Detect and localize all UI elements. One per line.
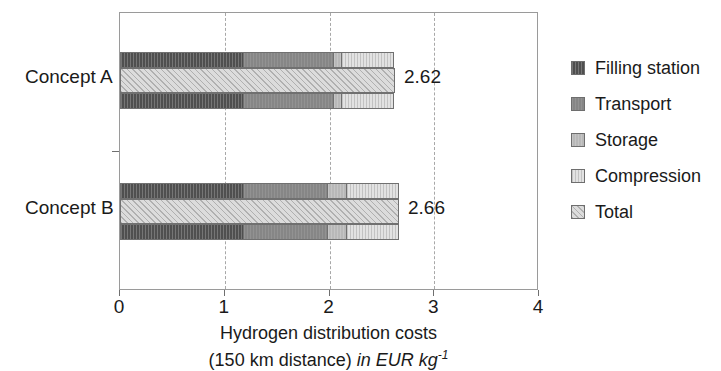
value-label-concept-a: 2.62 [404,66,441,88]
legend-label-storage: Storage [595,130,658,151]
legend-label-filling-station: Filling station [595,58,700,79]
segment-transport-a-top [243,52,333,68]
x-axis-title-distance: (150 km distance) [209,350,352,370]
xticklabel-1: 1 [204,296,244,318]
segment-compression-a-top [341,52,394,68]
plot-area [119,12,538,290]
legend-item-filling-station: Filling station [571,50,721,86]
segment-compression-a-bottom [341,93,394,109]
segment-storage-a-top [333,52,341,68]
segment-filling-station-b-top [120,183,243,199]
legend: Filling station Transport Storage Compre… [571,50,721,230]
x-axis-title-unit: in EUR kg [357,350,438,370]
xticklabel-3: 3 [413,296,453,318]
legend-item-compression: Compression [571,158,721,194]
segment-compression-b-bottom [346,224,399,240]
segment-transport-b-bottom [243,224,328,240]
segment-total-b [120,199,399,224]
segment-filling-station-b-bottom [120,224,243,240]
segment-storage-a-bottom [333,93,341,109]
segment-compression-b-top [346,183,399,199]
legend-item-storage: Storage [571,122,721,158]
gridline-x-3 [434,13,435,289]
legend-swatch-total-icon [571,205,585,219]
segment-filling-station-a-bottom [120,93,243,109]
segment-filling-station-a-top [120,52,243,68]
ytick-mid [112,151,119,152]
legend-item-transport: Transport [571,86,721,122]
legend-swatch-storage-icon [571,133,585,147]
xticklabel-4: 4 [518,296,558,318]
x-axis-title-unit-exponent: -1 [438,348,449,362]
segment-storage-b-bottom [327,224,345,240]
xticklabel-0: 0 [99,296,139,318]
segment-transport-b-top [243,183,328,199]
value-label-concept-b: 2.66 [408,197,445,219]
legend-label-total: Total [595,202,633,223]
segment-total-a [120,68,395,93]
legend-swatch-transport-icon [571,97,585,111]
legend-label-compression: Compression [595,166,701,187]
category-label-concept-a: Concept A [25,66,109,88]
xticklabel-2: 2 [309,296,349,318]
x-axis-title-line-2: (150 km distance) in EUR kg-1 [119,344,538,371]
legend-swatch-compression-icon [571,169,585,183]
legend-item-total: Total [571,194,721,230]
segment-transport-a-bottom [243,93,333,109]
segment-storage-b-top [327,183,345,199]
x-axis-title-line-1: Hydrogen distribution costs [119,322,538,344]
legend-swatch-filling-station-icon [571,61,585,75]
category-label-concept-b: Concept B [25,197,109,219]
x-axis-title: Hydrogen distribution costs (150 km dist… [119,322,538,371]
legend-label-transport: Transport [595,94,671,115]
